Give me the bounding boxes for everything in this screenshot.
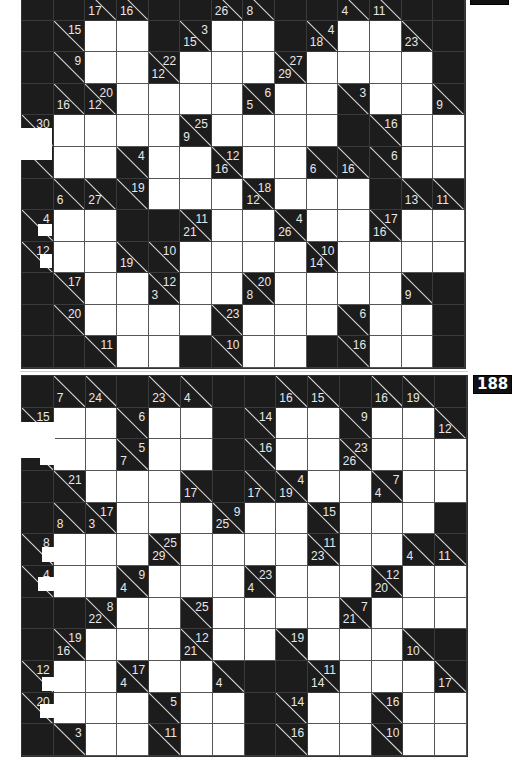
entry-cell[interactable] — [275, 84, 307, 116]
entry-cell[interactable] — [370, 84, 402, 116]
entry-cell[interactable] — [213, 629, 245, 661]
entry-cell[interactable] — [180, 242, 212, 274]
entry-cell[interactable] — [403, 408, 435, 440]
entry-cell[interactable] — [307, 84, 339, 116]
entry-cell[interactable] — [86, 661, 118, 693]
entry-cell[interactable] — [181, 534, 213, 566]
entry-cell[interactable] — [86, 408, 118, 440]
entry-cell[interactable] — [85, 21, 117, 53]
entry-cell[interactable] — [275, 242, 307, 274]
entry-cell[interactable] — [180, 179, 212, 211]
entry-cell[interactable] — [402, 52, 434, 84]
entry-cell[interactable] — [245, 503, 277, 535]
entry-cell[interactable] — [307, 210, 339, 242]
entry-cell[interactable] — [370, 336, 402, 368]
entry-cell[interactable] — [243, 52, 275, 84]
entry-cell[interactable] — [86, 534, 118, 566]
entry-cell[interactable] — [402, 336, 434, 368]
entry-cell[interactable] — [308, 439, 340, 471]
entry-cell[interactable] — [54, 534, 86, 566]
entry-cell[interactable] — [117, 598, 149, 630]
entry-cell[interactable] — [149, 336, 181, 368]
entry-cell[interactable] — [372, 598, 404, 630]
entry-cell[interactable] — [308, 724, 340, 756]
entry-cell[interactable] — [308, 566, 340, 598]
entry-cell[interactable] — [85, 273, 117, 305]
entry-cell[interactable] — [212, 52, 244, 84]
entry-cell[interactable] — [117, 629, 149, 661]
entry-cell[interactable] — [245, 629, 277, 661]
entry-cell[interactable] — [338, 242, 370, 274]
entry-cell[interactable] — [117, 534, 149, 566]
entry-cell[interactable] — [212, 210, 244, 242]
entry-cell[interactable] — [149, 503, 181, 535]
entry-cell[interactable] — [212, 115, 244, 147]
entry-cell[interactable] — [86, 693, 118, 725]
entry-cell[interactable] — [54, 242, 86, 274]
entry-cell[interactable] — [54, 115, 86, 147]
entry-cell[interactable] — [340, 693, 372, 725]
entry-cell[interactable] — [149, 408, 181, 440]
entry-cell[interactable] — [213, 534, 245, 566]
entry-cell[interactable] — [403, 566, 435, 598]
entry-cell[interactable] — [243, 305, 275, 337]
entry-cell[interactable] — [276, 408, 308, 440]
entry-cell[interactable] — [243, 242, 275, 274]
entry-cell[interactable] — [243, 336, 275, 368]
entry-cell[interactable] — [275, 273, 307, 305]
entry-cell[interactable] — [54, 566, 86, 598]
entry-cell[interactable] — [180, 52, 212, 84]
entry-cell[interactable] — [243, 115, 275, 147]
entry-cell[interactable] — [307, 115, 339, 147]
entry-cell[interactable] — [370, 305, 402, 337]
entry-cell[interactable] — [403, 693, 435, 725]
entry-cell[interactable] — [212, 84, 244, 116]
entry-cell[interactable] — [307, 179, 339, 211]
entry-cell[interactable] — [338, 210, 370, 242]
entry-cell[interactable] — [212, 273, 244, 305]
entry-cell[interactable] — [117, 273, 149, 305]
entry-cell[interactable] — [338, 273, 370, 305]
entry-cell[interactable] — [308, 598, 340, 630]
entry-cell[interactable] — [402, 242, 434, 274]
entry-cell[interactable] — [276, 503, 308, 535]
entry-cell[interactable] — [54, 147, 86, 179]
entry-cell[interactable] — [180, 84, 212, 116]
entry-cell[interactable] — [372, 629, 404, 661]
entry-cell[interactable] — [275, 115, 307, 147]
entry-cell[interactable] — [243, 147, 275, 179]
entry-cell[interactable] — [338, 179, 370, 211]
entry-cell[interactable] — [370, 52, 402, 84]
entry-cell[interactable] — [402, 147, 434, 179]
entry-cell[interactable] — [54, 693, 86, 725]
entry-cell[interactable] — [372, 534, 404, 566]
entry-cell[interactable] — [402, 115, 434, 147]
entry-cell[interactable] — [149, 84, 181, 116]
entry-cell[interactable] — [370, 273, 402, 305]
entry-cell[interactable] — [86, 629, 118, 661]
entry-cell[interactable] — [370, 242, 402, 274]
entry-cell[interactable] — [180, 305, 212, 337]
entry-cell[interactable] — [117, 52, 149, 84]
entry-cell[interactable] — [276, 566, 308, 598]
entry-cell[interactable] — [86, 471, 118, 503]
entry-cell[interactable] — [307, 305, 339, 337]
entry-cell[interactable] — [435, 439, 467, 471]
entry-cell[interactable] — [149, 629, 181, 661]
entry-cell[interactable] — [308, 693, 340, 725]
entry-cell[interactable] — [213, 693, 245, 725]
entry-cell[interactable] — [117, 336, 149, 368]
entry-cell[interactable] — [307, 52, 339, 84]
entry-cell[interactable] — [340, 724, 372, 756]
entry-cell[interactable] — [276, 534, 308, 566]
entry-cell[interactable] — [340, 629, 372, 661]
entry-cell[interactable] — [243, 210, 275, 242]
entry-cell[interactable] — [307, 273, 339, 305]
entry-cell[interactable] — [213, 566, 245, 598]
entry-cell[interactable] — [85, 305, 117, 337]
entry-cell[interactable] — [117, 693, 149, 725]
entry-cell[interactable] — [149, 115, 181, 147]
entry-cell[interactable] — [340, 566, 372, 598]
entry-cell[interactable] — [372, 503, 404, 535]
entry-cell[interactable] — [54, 210, 86, 242]
